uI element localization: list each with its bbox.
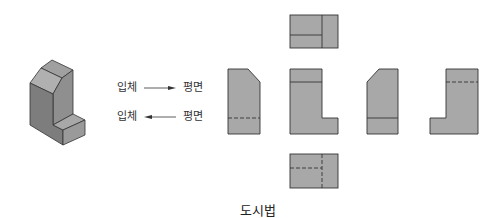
row2-from-label: 입체 [117, 111, 137, 123]
bottom-view [290, 154, 338, 188]
front-view [290, 69, 338, 134]
drawing-canvas [0, 0, 502, 218]
row1-from-label: 입체 [117, 82, 137, 94]
figure-caption: 도시법 [240, 200, 276, 218]
side-view-left [228, 69, 260, 134]
row1-to-label: 평면 [183, 82, 203, 94]
arrow-left-icon [144, 115, 176, 119]
row2-to-label: 평면 [183, 111, 203, 123]
arrow-right-icon [144, 86, 176, 90]
top-view [290, 15, 338, 48]
isometric-object [30, 60, 85, 145]
rear-view [430, 69, 478, 134]
side-view-right [367, 69, 398, 134]
